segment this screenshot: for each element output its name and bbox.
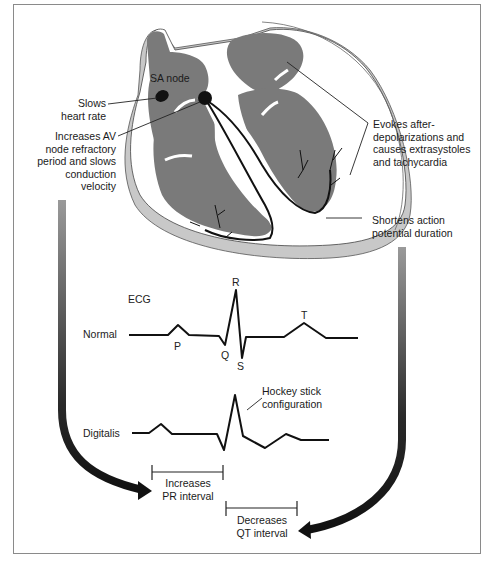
r-wave-label: R: [232, 276, 240, 288]
p-wave-label: P: [174, 340, 181, 352]
t-wave-label: T: [301, 309, 307, 321]
qt-interval-label: Decreases QT interval: [224, 514, 300, 539]
pr-interval-label: Increases PR interval: [150, 477, 226, 502]
digitalis-label: Digitalis: [83, 427, 120, 439]
slows-heart-rate-label: Slows heart rate: [40, 97, 106, 122]
av-node-marker: [198, 91, 212, 105]
av-node-effect-label: Increases AV node refractory period and …: [18, 130, 116, 193]
sa-node-label: SA node: [150, 72, 190, 85]
heart-illustration: [125, 22, 411, 259]
q-wave-label: Q: [221, 349, 229, 361]
normal-label: Normal: [83, 328, 117, 340]
afterdepolarization-label: Evokes after- depolarizations and causes…: [373, 118, 470, 168]
s-wave-label: S: [237, 360, 244, 372]
hockey-stick-label: Hockey stick configuration: [262, 385, 322, 410]
ecg-title: ECG: [128, 293, 151, 305]
ecg-normal-trace: [129, 290, 358, 358]
heart-ecg-diagram: [0, 0, 495, 572]
action-potential-label: Shortens action potential duration: [372, 214, 453, 239]
left-effect-arrow: [62, 200, 152, 500]
